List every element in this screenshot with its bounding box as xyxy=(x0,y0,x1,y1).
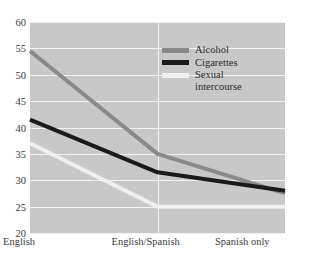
x-axis-tick-label: English xyxy=(3,236,35,247)
x-axis-tick-label: English/Spanish xyxy=(112,236,180,247)
legend-label: Sexual intercourse xyxy=(195,69,242,92)
y-axis-tick-label: 60 xyxy=(16,17,27,28)
y-axis-tick-label: 35 xyxy=(16,148,27,159)
line-chart: 202530354045505560 EnglishEnglish/Spanis… xyxy=(0,0,313,258)
legend-item: Sexual intercourse xyxy=(162,69,242,92)
plot-area xyxy=(30,22,285,233)
legend-swatch-icon xyxy=(162,73,189,78)
legend-item: Alcohol xyxy=(162,44,242,56)
x-axis-tick-label: Spanish only xyxy=(215,236,270,247)
gridline-horizontal xyxy=(30,233,285,234)
y-axis-tick-label: 30 xyxy=(16,175,27,186)
legend: AlcoholCigarettesSexual intercourse xyxy=(162,44,242,93)
legend-label: Cigarettes xyxy=(195,57,238,69)
series-layer xyxy=(30,22,285,233)
legend-swatch-icon xyxy=(162,60,189,65)
legend-label: Alcohol xyxy=(195,44,229,56)
y-axis-tick-label: 50 xyxy=(16,69,27,80)
y-axis-tick-label: 25 xyxy=(16,201,27,212)
y-axis-tick-label: 40 xyxy=(16,122,27,133)
y-axis-tick-label: 45 xyxy=(16,96,27,107)
y-axis-tick-label: 55 xyxy=(16,43,27,54)
legend-item: Cigarettes xyxy=(162,57,242,69)
legend-swatch-icon xyxy=(162,48,189,53)
